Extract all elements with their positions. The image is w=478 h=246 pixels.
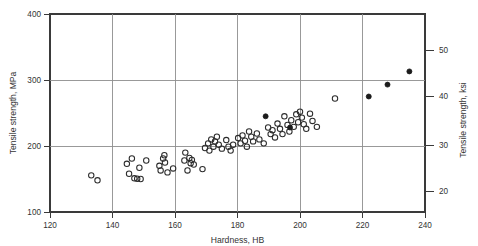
data-point <box>144 158 149 163</box>
data-point <box>407 69 412 74</box>
data-point <box>129 156 134 161</box>
x-ticklabel-140: 140 <box>106 221 120 230</box>
y-axis-title: Tensile strength, MPa <box>8 71 18 154</box>
data-point <box>138 176 143 181</box>
data-point <box>282 114 287 119</box>
data-point <box>137 165 142 170</box>
data-point <box>126 171 131 176</box>
x-ticklabel-240: 240 <box>418 221 432 230</box>
data-point <box>183 150 188 155</box>
data-point <box>275 121 280 126</box>
data-point <box>366 94 371 99</box>
y-axis-ticklabels-mpa: 400 300 200 100 <box>27 10 41 217</box>
data-point <box>263 114 268 119</box>
data-point <box>162 153 167 158</box>
data-point <box>244 144 249 149</box>
data-point <box>240 133 245 138</box>
data-point <box>124 161 129 166</box>
data-point <box>230 142 235 147</box>
chart-figure: 400 300 200 100 50 40 30 20 <box>0 0 478 246</box>
data-point <box>214 134 219 139</box>
data-point <box>280 131 285 136</box>
data-point <box>250 139 255 144</box>
x-ticklabel-120: 120 <box>43 221 57 230</box>
data-point <box>310 118 315 123</box>
vertical-gridlines <box>113 14 363 212</box>
data-point <box>257 137 262 142</box>
y-ticklabel-100: 100 <box>27 208 41 217</box>
data-point <box>246 129 251 134</box>
x-axis-title: Hardness, HB <box>211 235 265 245</box>
data-point <box>261 141 266 146</box>
data-point <box>254 131 259 136</box>
y2-ticklabel-30: 30 <box>439 141 449 150</box>
data-point <box>277 126 282 131</box>
y2-axis-title: Tensile strength, ksi <box>458 82 468 158</box>
data-point <box>242 138 247 143</box>
y2-ticklabel-40: 40 <box>439 92 449 101</box>
data-point <box>200 166 205 171</box>
data-point <box>219 146 224 151</box>
y2-axis-ticks-ksi <box>425 50 434 191</box>
data-point <box>165 170 170 175</box>
data-point <box>211 144 216 149</box>
y-ticklabel-400: 400 <box>27 10 41 19</box>
y-ticklabel-300: 300 <box>27 76 41 85</box>
data-point <box>288 125 293 130</box>
x-axis-ticklabels: 120 140 160 180 200 220 240 <box>43 221 432 230</box>
scatter-plot: 400 300 200 100 50 40 30 20 <box>0 0 478 246</box>
data-point <box>314 124 319 129</box>
y2-ticklabel-20: 20 <box>439 187 449 196</box>
data-point <box>272 135 277 140</box>
y-axis-ticks-mpa <box>44 14 50 212</box>
x-axis-ticks <box>50 212 425 218</box>
x-ticklabel-160: 160 <box>168 221 182 230</box>
y-ticklabel-200: 200 <box>27 142 41 151</box>
data-point <box>89 173 94 178</box>
data-point <box>185 168 190 173</box>
data-point <box>224 137 229 142</box>
x-ticklabel-180: 180 <box>231 221 245 230</box>
data-point <box>289 118 294 123</box>
data-point <box>307 111 312 116</box>
data-point <box>95 178 100 183</box>
x-ticklabel-220: 220 <box>356 221 370 230</box>
data-point <box>304 126 309 131</box>
y2-axis-ticklabels-ksi: 50 40 30 20 <box>439 46 449 196</box>
data-point <box>332 96 337 101</box>
data-point <box>385 82 390 87</box>
x-ticklabel-200: 200 <box>293 221 307 230</box>
y2-ticklabel-50: 50 <box>439 46 449 55</box>
data-point <box>294 112 299 117</box>
